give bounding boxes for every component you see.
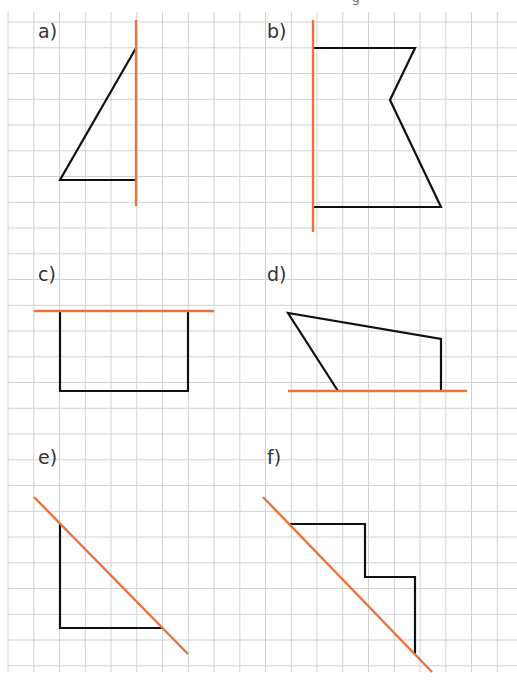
label-d: d) bbox=[267, 265, 286, 284]
label-b: b) bbox=[267, 22, 286, 41]
label-c: c) bbox=[38, 265, 56, 284]
figure-shape-a bbox=[60, 48, 136, 180]
figure-shape-c bbox=[60, 311, 188, 391]
mirror-axis-e bbox=[34, 497, 188, 654]
figure-shape-d bbox=[288, 313, 441, 391]
exercise-b bbox=[313, 20, 441, 232]
figure-shape-b bbox=[313, 48, 441, 207]
exercise-d bbox=[288, 313, 467, 391]
label-e: e) bbox=[38, 448, 57, 467]
exercise-f bbox=[263, 497, 432, 672]
label-f: f) bbox=[267, 448, 281, 467]
label-a: a) bbox=[38, 22, 57, 41]
exercise-a bbox=[60, 20, 136, 206]
exercise-c bbox=[34, 311, 214, 391]
figures-layer bbox=[0, 0, 517, 686]
exercise-e bbox=[34, 497, 188, 654]
worksheet: g a) b) c) d) e) f) bbox=[0, 0, 517, 686]
